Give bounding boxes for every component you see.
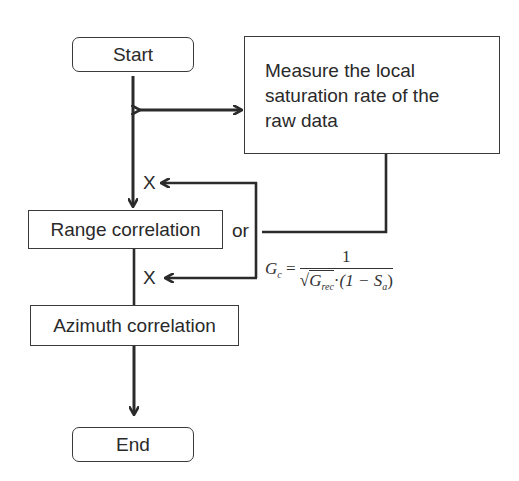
range-correlation-label: Range correlation (51, 219, 201, 241)
azimuth-correlation-label: Azimuth correlation (53, 315, 216, 337)
measure-saturation-node: Measure the local saturation rate of the… (244, 36, 500, 154)
formula-fraction: 1 √Grec·(1 − Sa) (300, 247, 393, 292)
end-node: End (72, 427, 194, 462)
end-label: End (116, 434, 150, 456)
formula-denominator: √Grec·(1 − Sa) (300, 269, 393, 292)
start-label: Start (113, 44, 153, 66)
formula-numerator: 1 (300, 247, 393, 269)
formula-lhs: Gc (265, 259, 282, 278)
connector-measure-down (262, 153, 386, 232)
multiply-symbol-top: X (143, 172, 156, 194)
measure-line-3: raw data (265, 108, 439, 133)
formula-equals: = (286, 259, 296, 278)
azimuth-correlation-node: Azimuth correlation (30, 305, 239, 346)
start-node: Start (72, 37, 194, 72)
multiply-symbol-bottom: X (143, 267, 156, 289)
measure-line-2: saturation rate of the (265, 83, 439, 108)
measure-line-1: Measure the local (265, 58, 439, 83)
range-correlation-node: Range correlation (28, 210, 223, 249)
or-label: or (232, 220, 249, 242)
gain-formula: Gc = 1 √Grec·(1 − Sa) (265, 247, 393, 292)
